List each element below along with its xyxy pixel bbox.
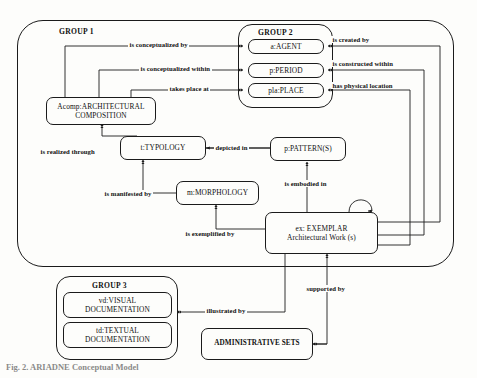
relation-has-physical-location: has physical location	[331, 82, 394, 89]
relation-is-conceptualized-within: is conceptualized within	[139, 65, 212, 72]
entity-textualdoc-label-line1: td:TEXTUAL	[96, 326, 139, 335]
entity-agent[interactable]: a:AGENT	[248, 39, 324, 54]
entity-agent-label: a:AGENT	[270, 42, 301, 51]
relation-is-conceptualized-by: is conceptualized by	[128, 41, 189, 48]
entity-period-label: p:PERIOD	[269, 66, 302, 75]
entity-visualdoc-label-line2: DOCUMENTATION	[85, 305, 150, 314]
entity-typology[interactable]: t:TYPOLOGY	[120, 136, 206, 160]
entity-acomp-label-line2: COMPOSITION	[75, 111, 127, 120]
relation-takes-place-at: takes place at	[168, 85, 210, 92]
entity-architectural-composition[interactable]: Acomp:ARCHITECTURAL COMPOSITION	[46, 97, 156, 125]
entity-acomp-label-line1: Acomp:ARCHITECTURAL	[57, 102, 144, 111]
group-1-label: GROUP 1	[59, 27, 94, 36]
entity-visual-documentation[interactable]: vd:VISUAL DOCUMENTATION	[63, 292, 172, 318]
entity-textual-documentation[interactable]: td:TEXTUAL DOCUMENTATION	[63, 322, 172, 348]
relation-is-exemplified-by: is exemplified by	[184, 230, 236, 237]
group-3-label: GROUP 3	[92, 281, 127, 290]
entity-morphology[interactable]: m:MORPHOLOGY	[176, 181, 259, 205]
entity-exemplar-label-line2: Architectural Work (s)	[287, 233, 356, 242]
relation-is-created-by: is created by	[331, 36, 371, 43]
relation-is-realized-through: is realized through	[39, 148, 96, 155]
entity-exemplar[interactable]: ex: EXEMPLAR Architectural Work (s)	[265, 212, 378, 254]
group-2-label: GROUP 2	[258, 28, 293, 37]
diagram-canvas: GROUP 1 GROUP 2 a:AGENT p:PERIOD pla:PLA…	[0, 0, 477, 378]
entity-period[interactable]: p:PERIOD	[248, 63, 324, 78]
entity-adminsets-label: ADMINISTRATIVE SETS	[214, 339, 299, 348]
entity-exemplar-label-line1: ex: EXEMPLAR	[296, 224, 348, 233]
relation-is-constructed-within: is constructed within	[331, 60, 395, 67]
relation-depicted-in: depicted in	[214, 144, 249, 151]
entity-place-label: pla:PLACE	[268, 86, 303, 95]
entity-textualdoc-label-line2: DOCUMENTATION	[85, 335, 150, 344]
relation-is-embodied-in: is embodied in	[283, 180, 328, 187]
relation-illustrated-by: illustrated by	[205, 307, 247, 314]
entity-typology-label: t:TYPOLOGY	[141, 143, 186, 152]
entity-place[interactable]: pla:PLACE	[248, 83, 324, 98]
entity-administrative-sets[interactable]: ADMINISTRATIVE SETS	[201, 328, 313, 360]
entity-morphology-label: m:MORPHOLOGY	[187, 188, 248, 197]
relation-supported-by: supported by	[305, 285, 346, 292]
entity-pattern-label: p:PATTERN(S)	[284, 144, 332, 153]
entity-pattern[interactable]: p:PATTERN(S)	[270, 137, 346, 161]
entity-visualdoc-label-line1: vd:VISUAL	[99, 296, 136, 305]
figure-caption: Fig. 2. ARIADNE Conceptual Model	[6, 362, 139, 372]
relation-is-manifested-by: is manifested by	[103, 190, 153, 197]
